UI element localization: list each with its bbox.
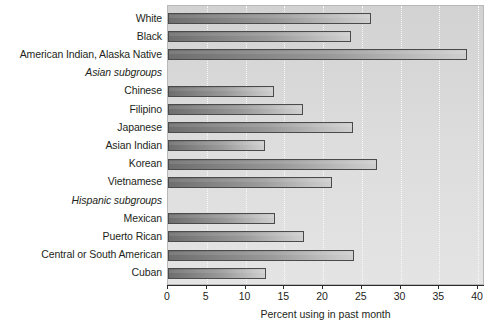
category-label: Puerto Rican: [0, 230, 162, 242]
category-label: American Indian, Alaska Native: [0, 48, 162, 60]
gridline-35: [439, 6, 441, 284]
category-label: Chinese: [0, 84, 162, 96]
x-axis-tick-15: [283, 285, 284, 289]
category-label: Japanese: [0, 121, 162, 133]
plot-area: [167, 5, 484, 285]
x-axis-tick-label-5: 5: [191, 290, 221, 303]
gridline-30: [401, 6, 403, 284]
bar: [168, 250, 354, 261]
bar: [168, 13, 371, 24]
x-axis-tick-label-0: 0: [152, 290, 182, 303]
group-header-label: Asian subgroups: [0, 66, 162, 78]
x-axis-title: Percent using in past month: [167, 308, 484, 320]
x-axis-tick-0: [167, 285, 168, 289]
category-label: Cuban: [0, 266, 162, 278]
x-axis-tick-label-35: 35: [423, 290, 453, 303]
gridline-40: [478, 6, 480, 284]
x-axis-tick-35: [438, 285, 439, 289]
x-axis-tick-label-10: 10: [230, 290, 260, 303]
bar: [168, 268, 266, 279]
bar: [168, 140, 265, 151]
bar: [168, 122, 353, 133]
x-axis-tick-25: [361, 285, 362, 289]
bar-chart: WhiteBlackAmerican Indian, Alaska Native…: [0, 0, 496, 331]
category-label: White: [0, 12, 162, 24]
bar: [168, 104, 303, 115]
x-axis-tick-40: [477, 285, 478, 289]
x-axis-tick-label-25: 25: [346, 290, 376, 303]
bar: [168, 231, 304, 242]
x-axis-tick-30: [400, 285, 401, 289]
bar: [168, 177, 332, 188]
category-label-column: WhiteBlackAmerican Indian, Alaska Native…: [0, 5, 162, 285]
gridline-20: [323, 6, 325, 284]
x-axis-tick-5: [206, 285, 207, 289]
category-label: Filipino: [0, 103, 162, 115]
x-axis-tick-label-20: 20: [307, 290, 337, 303]
category-label: Black: [0, 30, 162, 42]
category-label: Vietnamese: [0, 175, 162, 187]
gridline-25: [362, 6, 364, 284]
category-label: Central or South American: [0, 248, 162, 260]
x-axis-line: [167, 285, 484, 286]
category-label: Asian Indian: [0, 139, 162, 151]
bar: [168, 86, 274, 97]
bar: [168, 159, 377, 170]
x-axis-tick-20: [322, 285, 323, 289]
bar: [168, 31, 351, 42]
x-axis-tick-10: [245, 285, 246, 289]
category-label: Mexican: [0, 212, 162, 224]
bar: [168, 49, 467, 60]
group-header-label: Hispanic subgroups: [0, 194, 162, 206]
x-axis-tick-label-30: 30: [385, 290, 415, 303]
x-axis-tick-label-15: 15: [268, 290, 298, 303]
category-label: Korean: [0, 157, 162, 169]
bar: [168, 213, 275, 224]
x-axis-tick-label-40: 40: [462, 290, 492, 303]
